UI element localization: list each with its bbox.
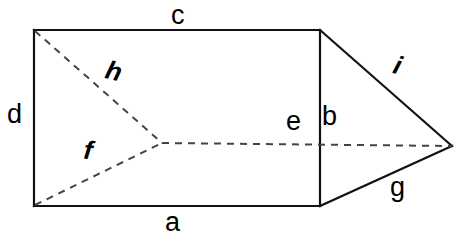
edge-f-hidden-lower — [35, 143, 162, 205]
label-b: b — [322, 103, 337, 130]
label-d: d — [7, 101, 22, 128]
label-g: g — [390, 174, 405, 201]
label-e: e — [286, 108, 301, 135]
prism-line-drawing — [0, 0, 459, 241]
edge-g-lower-slant — [320, 146, 452, 206]
edge-h-hidden-upper — [35, 31, 162, 143]
label-a: a — [165, 209, 180, 236]
edge-e-hidden-horizontal — [162, 143, 452, 146]
edge-i-upper-slant — [320, 30, 452, 146]
label-c: c — [171, 2, 185, 29]
diagram-canvas: c a d b e f g h i — [0, 0, 459, 241]
